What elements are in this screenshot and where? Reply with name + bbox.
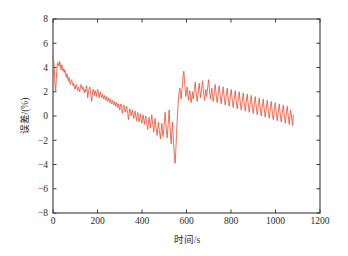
y-tick-label: 0: [43, 111, 48, 121]
x-tick-label: 1200: [311, 216, 330, 226]
x-tick-label: 400: [135, 216, 150, 226]
x-tick-label: 600: [179, 216, 194, 226]
y-tick-label: −8: [38, 208, 48, 218]
y-tick-label: −2: [38, 136, 48, 146]
x-tick-label: 200: [90, 216, 105, 226]
x-axis-title: 时间/s: [174, 234, 201, 245]
y-tick-label: −4: [38, 160, 48, 170]
x-tick-label: 800: [224, 216, 239, 226]
y-tick-label: 2: [43, 87, 48, 97]
error-vs-time-line-chart: 020040060080010001200 86420−2−4−6−8 时间/s…: [0, 0, 348, 256]
y-tick-label: 4: [43, 63, 48, 73]
y-tick-label: 8: [43, 14, 48, 24]
y-tick-label: 6: [43, 39, 48, 49]
chart-figure: 020040060080010001200 86420−2−4−6−8 时间/s…: [0, 0, 348, 256]
y-tick-label: −6: [38, 184, 48, 194]
y-axis-title: 误差/(%): [19, 98, 31, 135]
x-tick-label: 0: [51, 216, 56, 226]
x-tick-label: 1000: [266, 216, 285, 226]
